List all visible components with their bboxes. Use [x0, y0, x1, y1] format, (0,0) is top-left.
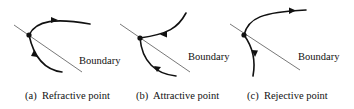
outgoing-trajectory: [29, 21, 90, 35]
arrow-right-icon: [51, 17, 58, 23]
outgoing-trajectory-lower: [244, 35, 254, 76]
attractive-point-dot: [137, 35, 142, 40]
boundary-line: [14, 25, 82, 72]
boundary-line: [230, 24, 300, 70]
boundary-label: Boundary: [188, 51, 230, 62]
boundary-points-figure: Boundary (a) Refractive point Boundary (…: [0, 0, 354, 109]
panel-attractive: Boundary (b) Attractive point: [120, 13, 230, 102]
boundary-label: Boundary: [79, 55, 121, 66]
refractive-point-dot: [26, 32, 31, 37]
rejective-point-dot: [241, 32, 246, 37]
boundary-line: [120, 24, 190, 72]
caption-rejective: (c) Rejective point: [247, 90, 328, 102]
caption-attractive: (b) Attractive point: [136, 90, 219, 102]
arrow-up-icon: [31, 50, 38, 57]
outgoing-trajectory-upper: [244, 10, 306, 35]
caption-refractive: (a) Refractive point: [25, 90, 110, 102]
arrow-right-icon: [289, 8, 296, 15]
boundary-label: Boundary: [298, 51, 340, 62]
panel-refractive: Boundary (a) Refractive point: [14, 17, 121, 102]
panel-rejective: Boundary (c) Rejective point: [230, 8, 340, 103]
